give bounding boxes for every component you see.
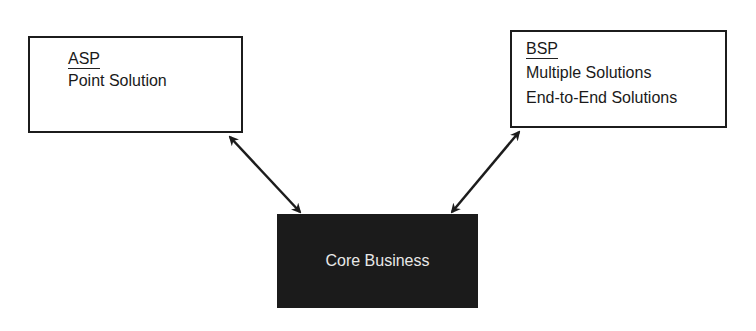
core-business-label: Core Business <box>277 252 478 270</box>
core-business-box: Core Business <box>277 214 478 308</box>
bsp-box: BSP Multiple Solutions End-to-End Soluti… <box>510 30 727 128</box>
asp-core-arrow <box>230 137 300 212</box>
asp-line: Point Solution <box>68 72 167 90</box>
asp-title: ASP <box>68 50 100 69</box>
asp-box: ASP Point Solution <box>28 36 243 133</box>
bsp-title: BSP <box>526 40 558 59</box>
bsp-line-1: Multiple Solutions <box>526 64 651 82</box>
bsp-line-2: End-to-End Solutions <box>526 89 677 107</box>
bsp-core-arrow <box>452 132 519 212</box>
